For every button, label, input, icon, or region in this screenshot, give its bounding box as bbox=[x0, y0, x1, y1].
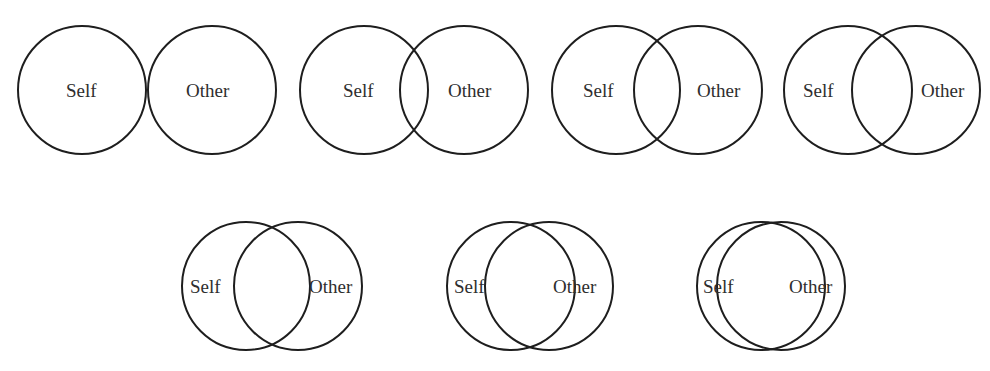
other-label: Other bbox=[789, 277, 832, 296]
self-label: Self bbox=[190, 277, 221, 296]
other-label: Other bbox=[186, 81, 229, 100]
self-label: Self bbox=[454, 277, 485, 296]
self-label: Self bbox=[803, 81, 834, 100]
self-label: Self bbox=[343, 81, 374, 100]
self-label: Self bbox=[583, 81, 614, 100]
ios-diagram: Self Other Self Other Self Other Self Ot… bbox=[0, 0, 990, 371]
other-label: Other bbox=[309, 277, 352, 296]
self-label: Self bbox=[66, 81, 97, 100]
other-label: Other bbox=[697, 81, 740, 100]
self-label: Self bbox=[703, 277, 734, 296]
other-label: Other bbox=[448, 81, 491, 100]
other-label: Other bbox=[921, 81, 964, 100]
other-label: Other bbox=[553, 277, 596, 296]
